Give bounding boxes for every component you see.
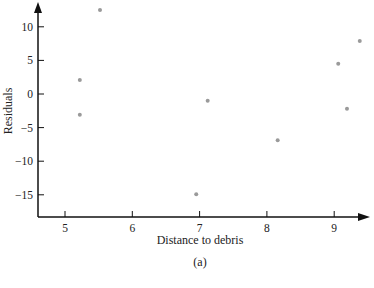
y-axis-arrow-icon — [34, 2, 42, 13]
x-tick-label: 5 — [62, 222, 68, 234]
data-point — [78, 113, 82, 117]
y-tick-label: −15 — [15, 189, 33, 201]
x-axis-label: Distance to debris — [157, 233, 244, 247]
y-tick-label: 5 — [27, 54, 33, 66]
y-tick-label: −5 — [21, 122, 33, 134]
x-tick-label: 9 — [331, 222, 337, 234]
scatter-chart: 1050−5−10−1556789 Residuals Distance to … — [0, 0, 374, 288]
data-point — [206, 99, 210, 103]
data-point — [358, 39, 362, 43]
data-point — [98, 8, 102, 12]
data-point — [78, 78, 82, 82]
x-axis-arrow-icon — [358, 213, 370, 221]
data-point — [194, 192, 198, 196]
data-point — [345, 107, 349, 111]
data-point — [276, 138, 280, 142]
y-axis-label: Residuals — [1, 87, 15, 134]
y-tick-label: 0 — [27, 88, 33, 100]
plot-area: 1050−5−10−1556789 — [15, 2, 370, 234]
data-point — [336, 62, 340, 66]
figure-caption: (a) — [193, 255, 206, 269]
x-tick-label: 8 — [264, 222, 270, 234]
y-tick-label: 10 — [22, 21, 34, 33]
y-tick-label: −10 — [15, 155, 33, 167]
x-tick-label: 6 — [129, 222, 135, 234]
